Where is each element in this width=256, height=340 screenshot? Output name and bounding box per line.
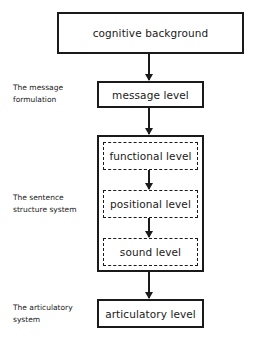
arrow-down-icon [148,272,150,298]
arrow-down-icon [148,170,150,189]
message-formulation-label: The message formulation [13,82,63,106]
cognitive-background-node: cognitive background [57,12,244,54]
label-line: The articulatory [13,302,73,314]
sentence-structure-label: The sentence structure system [13,192,77,216]
positional-level-node: positional level [103,190,198,218]
articulatory-level-text: articulatory level [105,308,196,320]
cognitive-background-text: cognitive background [93,27,209,39]
label-line: structure system [13,204,77,216]
sound-level-node: sound level [103,238,198,266]
arrow-down-icon [148,54,150,80]
message-level-text: message level [112,89,189,101]
label-line: The sentence [13,192,77,204]
articulatory-system-label: The articulatory system [13,302,73,326]
positional-level-text: positional level [110,198,191,210]
label-line: formulation [13,94,63,106]
functional-level-text: functional level [109,150,191,162]
functional-level-node: functional level [103,142,198,170]
label-line: system [13,314,73,326]
sound-level-text: sound level [120,246,181,258]
message-level-node: message level [97,81,204,108]
articulatory-level-node: articulatory level [97,299,204,328]
arrow-down-icon [148,108,150,134]
label-line: The message [13,82,63,94]
arrow-down-icon [148,218,150,237]
